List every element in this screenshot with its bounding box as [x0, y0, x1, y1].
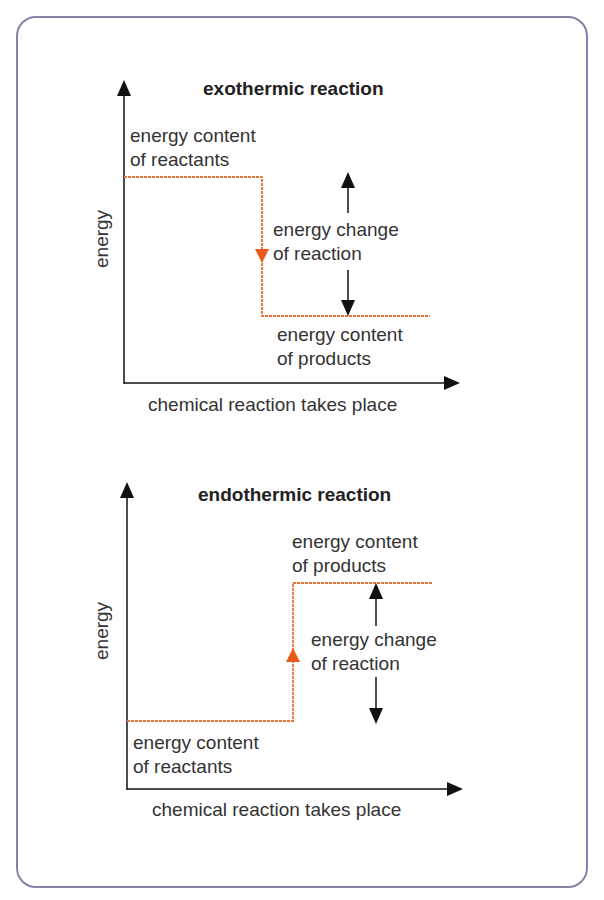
y-axis-arrow-icon	[117, 80, 131, 96]
exo-y-axis-label: energy	[91, 210, 113, 268]
exo-change-label-2: of reaction	[273, 242, 362, 266]
up-arrow-icon	[286, 648, 300, 662]
endo-reactants-label-2: of reactants	[133, 755, 232, 779]
down-arrow-icon	[341, 300, 355, 316]
exo-products-label-1: energy content	[277, 323, 403, 347]
down-arrow-icon	[369, 708, 383, 724]
down-arrow-icon	[255, 249, 269, 263]
endo-y-axis-label: energy	[91, 602, 113, 660]
exo-title: exothermic reaction	[203, 78, 384, 100]
endo-change-label-1: energy change	[311, 628, 437, 652]
diagrams-graphics	[0, 0, 604, 900]
y-axis-arrow-icon	[120, 482, 134, 498]
endo-title: endothermic reaction	[198, 484, 391, 506]
endo-products-label-1: energy content	[292, 530, 418, 554]
x-axis-arrow-icon	[447, 782, 463, 796]
endo-change-label-2: of reaction	[311, 652, 400, 676]
exo-x-axis-label: chemical reaction takes place	[148, 393, 397, 417]
up-arrow-icon	[341, 172, 355, 188]
x-axis-arrow-icon	[444, 376, 460, 390]
endo-x-axis-label: chemical reaction takes place	[152, 798, 401, 822]
exo-reactants-label-1: energy content	[130, 124, 256, 148]
up-arrow-icon	[369, 583, 383, 599]
exo-change-label-1: energy change	[273, 218, 399, 242]
exo-reactants-label-2: of reactants	[130, 148, 229, 172]
endo-reactants-label-1: energy content	[133, 731, 259, 755]
exo-products-label-2: of products	[277, 347, 371, 371]
endo-products-label-2: of products	[292, 554, 386, 578]
